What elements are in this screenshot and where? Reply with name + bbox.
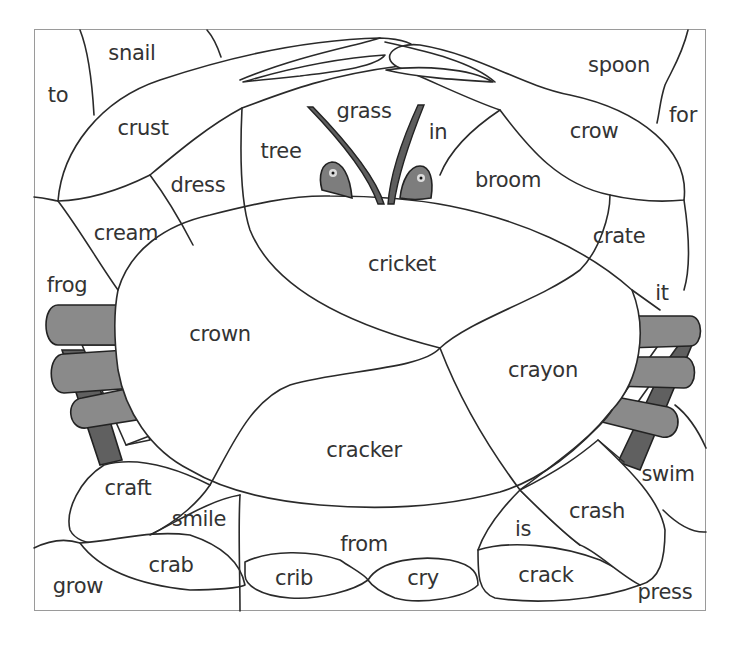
word-is[interactable]: is [515,519,531,540]
word-crab[interactable]: crab [148,555,193,576]
word-in[interactable]: in [429,122,448,143]
word-for[interactable]: for [669,105,697,126]
word-tree[interactable]: tree [260,141,301,162]
word-cricket[interactable]: cricket [368,254,436,275]
word-crate[interactable]: crate [593,226,646,247]
word-cracker[interactable]: cracker [326,440,401,461]
left-eye-icon [320,162,352,198]
word-crash[interactable]: crash [569,501,625,522]
word-grass[interactable]: grass [336,101,391,122]
word-cry[interactable]: cry [407,568,439,589]
word-crust[interactable]: crust [117,118,168,139]
word-spoon[interactable]: spoon [588,55,650,76]
word-crib[interactable]: crib [275,568,313,589]
word-craft[interactable]: craft [105,478,152,499]
crab-worksheet: snail to crust grass tree in spoon for c… [0,0,731,645]
word-crown[interactable]: crown [189,324,251,345]
word-crayon[interactable]: crayon [508,360,578,381]
word-broom[interactable]: broom [475,170,541,191]
word-smile[interactable]: smile [172,509,227,530]
word-press[interactable]: press [638,582,693,603]
word-grow[interactable]: grow [53,576,103,597]
word-crow[interactable]: crow [570,121,619,142]
word-cream[interactable]: cream [94,223,158,244]
word-snail[interactable]: snail [108,43,155,64]
word-frog[interactable]: frog [47,275,88,296]
word-swim[interactable]: swim [641,464,694,485]
word-dress[interactable]: dress [171,175,226,196]
word-it[interactable]: it [655,283,668,304]
word-to[interactable]: to [48,85,68,106]
right-eye-icon [400,166,432,200]
word-crack[interactable]: crack [518,565,573,586]
word-from[interactable]: from [340,534,388,555]
